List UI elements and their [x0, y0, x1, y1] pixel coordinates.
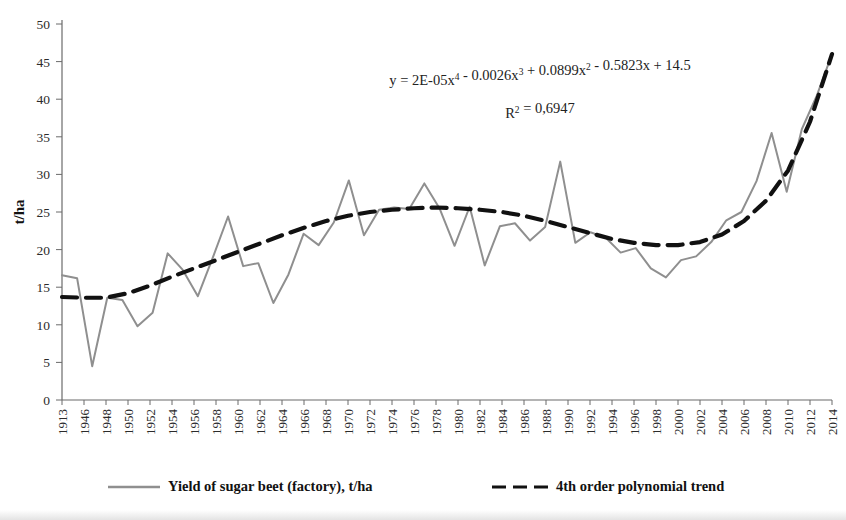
x-tick-label: 1996	[627, 409, 642, 436]
line-chart: 05101520253035404550 1913194619481950195…	[0, 0, 846, 520]
y-tick-label: 45	[37, 55, 51, 70]
y-tick-label: 15	[37, 280, 51, 295]
x-tick-label: 1956	[187, 409, 202, 436]
y-tick-label: 50	[37, 17, 51, 32]
x-tick-label: 1970	[341, 409, 356, 435]
legend-label-trend: 4th order polynomial trend	[556, 478, 724, 494]
x-tick-label: 1964	[275, 409, 290, 436]
x-tick-label: 1974	[385, 409, 400, 436]
x-tick-label: 1998	[649, 409, 664, 435]
legend-label-observed: Yield of sugar beet (factory), t/ha	[168, 478, 373, 495]
x-tick-label: 1952	[143, 409, 158, 435]
x-tick-label: 2008	[759, 409, 774, 435]
x-tick-label: 2010	[781, 409, 796, 435]
chart-container: 05101520253035404550 1913194619481950195…	[0, 0, 846, 520]
x-tick-label: 1988	[539, 409, 554, 435]
x-tick-label: 1960	[231, 409, 246, 435]
x-tick-label: 1976	[407, 409, 422, 436]
y-tick-label: 0	[43, 393, 50, 408]
y-tick-label: 5	[43, 355, 50, 370]
x-tick-label: 1986	[517, 409, 532, 436]
x-tick-label: 2006	[737, 409, 752, 436]
x-tick-label: 1992	[583, 409, 598, 435]
x-tick-label: 1913	[55, 409, 70, 435]
y-tick-label: 35	[37, 130, 51, 145]
x-tick-label: 1978	[429, 409, 444, 435]
y-tick-label: 25	[37, 205, 51, 220]
y-tick-label: 20	[37, 243, 51, 258]
x-tick-label: 1946	[77, 409, 92, 436]
x-tick-label: 1968	[319, 409, 334, 435]
y-axis-title: t/ha	[11, 199, 27, 225]
x-tick-label: 1966	[297, 409, 312, 436]
x-tick-label: 1980	[451, 409, 466, 435]
x-tick-label: 2014	[825, 409, 840, 436]
x-tick-label: 2004	[715, 409, 730, 436]
x-tick-label: 2002	[693, 409, 708, 435]
x-tick-label: 1958	[209, 409, 224, 435]
x-tick-label: 1954	[165, 409, 180, 436]
x-tick-label: 1950	[121, 409, 136, 435]
x-tick-label: 2012	[803, 409, 818, 435]
y-tick-label: 10	[37, 318, 51, 333]
x-tick-label: 1990	[561, 409, 576, 435]
x-tick-label: 2000	[671, 409, 686, 435]
x-tick-label: 1984	[495, 409, 510, 436]
x-tick-label: 1948	[99, 409, 114, 435]
y-tick-label: 40	[37, 92, 51, 107]
x-tick-label: 1994	[605, 409, 620, 436]
x-tick-label: 1982	[473, 409, 488, 435]
x-tick-label: 1962	[253, 409, 268, 435]
y-tick-label: 30	[37, 167, 51, 182]
x-tick-label: 1972	[363, 409, 378, 435]
